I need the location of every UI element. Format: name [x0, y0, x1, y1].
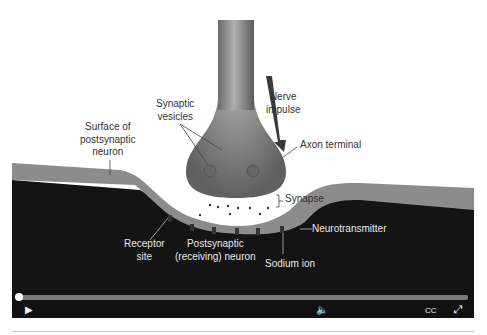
- progress-handle[interactable]: [15, 293, 23, 301]
- receptor-site-line-2: site: [124, 251, 165, 264]
- postsynaptic-line-1: Postsynaptic: [175, 238, 256, 251]
- surface-line-3: neuron: [80, 146, 136, 159]
- play-button[interactable]: ▶: [25, 304, 33, 315]
- progress-bar[interactable]: [18, 295, 468, 300]
- surface-line-1: Surface of: [80, 121, 136, 134]
- play-icon: ▶: [25, 304, 33, 315]
- postsynaptic-neuron-label: Postsynaptic (receiving) neuron: [175, 238, 256, 263]
- synapse-label: Synapse: [285, 193, 324, 206]
- sodium-ion-label: Sodium ion: [265, 258, 315, 271]
- receptor-site-label: Receptor site: [124, 238, 165, 263]
- synapse-illustration: [0, 0, 487, 335]
- nerve-impulse-label: Nerve impulse: [266, 91, 300, 116]
- nerve-impulse-line-2: impulse: [266, 104, 300, 117]
- nerve-impulse-line-1: Nerve: [266, 91, 300, 104]
- surface-label: Surface of postsynaptic neuron: [80, 121, 136, 159]
- neurotransmitter-label: Neurotransmitter: [312, 223, 386, 236]
- volume-button[interactable]: 🔈: [316, 304, 328, 315]
- fullscreen-button[interactable]: ⤢: [454, 303, 463, 316]
- video-player[interactable]: Nerve impulse Synaptic vesicles Surface …: [0, 0, 487, 335]
- divider: [12, 331, 474, 332]
- volume-icon: 🔈: [316, 304, 328, 315]
- postsynaptic-line-2: (receiving) neuron: [175, 251, 256, 264]
- axon-terminal-label: Axon terminal: [300, 139, 361, 152]
- synaptic-vesicles-label: Synaptic vesicles: [156, 98, 194, 123]
- synaptic-vesicles-line-2: vesicles: [156, 111, 194, 124]
- fullscreen-icon: ⤢: [454, 303, 463, 315]
- captions-button[interactable]: CC: [425, 306, 437, 315]
- receptor-site-line-1: Receptor: [124, 238, 165, 251]
- synaptic-vesicles-line-1: Synaptic: [156, 98, 194, 111]
- surface-line-2: postsynaptic: [80, 134, 136, 147]
